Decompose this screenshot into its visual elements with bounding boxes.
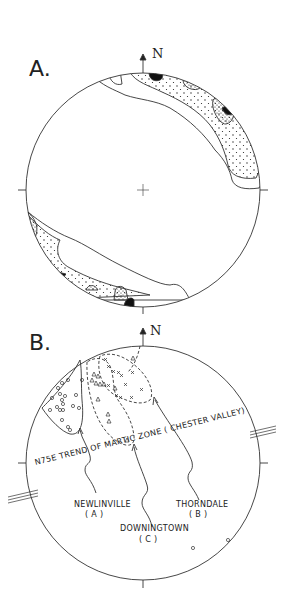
stereonet-figure [0, 0, 287, 607]
group-label-newlinville: NEWLINVILLE [74, 500, 131, 509]
group-code-newlinville: ( A ) [85, 510, 103, 519]
group-code-downingtown: ( C ) [139, 535, 157, 544]
group-code-thorndale: ( B ) [189, 510, 207, 519]
thorndale-points [104, 358, 143, 399]
newlinville-envelope [42, 360, 83, 434]
group-label-thorndale: THORNDALE [176, 500, 228, 509]
group-label-downingtown: DOWNINGTOWN [120, 524, 189, 533]
downingtown-points [90, 356, 135, 442]
stereonet-a [18, 54, 270, 314]
